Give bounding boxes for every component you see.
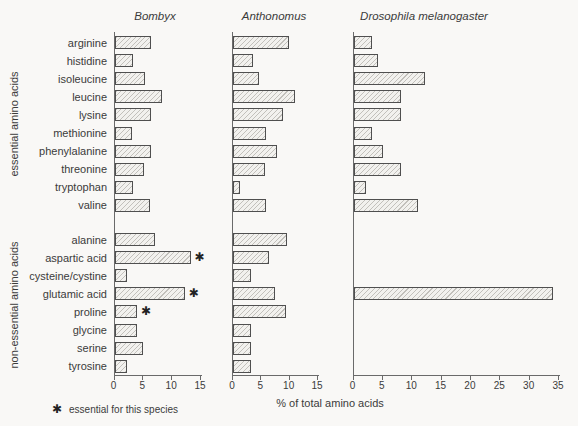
bar-anthonomus-threonine <box>233 163 265 176</box>
bar-drosophila-melanogaster-arginine <box>354 36 372 49</box>
bar-anthonomus-histidine <box>233 54 253 67</box>
x-tick-label-anthonomus-5: 5 <box>258 380 264 391</box>
x-tick-label-anthonomus-15: 15 <box>311 380 322 391</box>
bar-anthonomus-serine <box>233 342 251 355</box>
x-tick-label-drosophila-melanogaster-0: 0 <box>350 380 356 391</box>
bar-drosophila-melanogaster-methionine <box>354 127 372 140</box>
category-label-alanine: alanine <box>72 234 107 247</box>
bar-anthonomus-methionine <box>233 127 266 140</box>
x-tick-label-anthonomus-0: 0 <box>229 380 235 391</box>
bar-anthonomus-valine <box>233 199 266 212</box>
bar-bombyx-aspartic-acid <box>115 251 191 264</box>
bar-bombyx-glutamic-acid <box>115 287 185 300</box>
bar-drosophila-melanogaster-lysine <box>354 108 402 121</box>
bar-bombyx-tyrosine <box>115 360 127 373</box>
bar-anthonomus-glycine <box>233 324 251 337</box>
bar-bombyx-leucine <box>115 90 162 103</box>
bar-bombyx-proline <box>115 305 137 318</box>
bar-anthonomus-alanine <box>233 233 287 246</box>
bar-anthonomus-glutamic-acid <box>233 287 275 300</box>
bar-anthonomus-phenylalanine <box>233 145 277 158</box>
bar-drosophila-melanogaster-tryptophan <box>354 181 367 194</box>
bar-drosophila-melanogaster-threonine <box>354 163 402 176</box>
x-tick-label-drosophila-melanogaster-5: 5 <box>379 380 385 391</box>
bar-drosophila-melanogaster-isoleucine <box>354 72 426 85</box>
category-label-glycine: glycine <box>73 324 107 337</box>
bar-anthonomus-tyrosine <box>233 360 251 373</box>
x-tick-label-bombyx-15: 15 <box>194 380 205 391</box>
x-tick-label-bombyx-0: 0 <box>111 380 117 391</box>
category-label-methionine: methionine <box>53 127 107 140</box>
bar-bombyx-arginine <box>115 36 151 49</box>
category-label-threonine: threonine <box>61 163 107 176</box>
category-label-glutamic-acid: glutamic acid <box>43 288 107 301</box>
category-label-lysine: lysine <box>79 109 107 122</box>
category-label-serine: serine <box>77 342 107 355</box>
bar-bombyx-lysine <box>115 108 152 121</box>
asterisk-icon-glutamic-acid: ✱ <box>189 287 199 300</box>
bar-drosophila-melanogaster-leucine <box>354 90 402 103</box>
category-label-leucine: leucine <box>72 91 107 104</box>
bar-drosophila-melanogaster-phenylalanine <box>354 145 384 158</box>
bar-drosophila-melanogaster-glutamic-acid <box>354 287 554 300</box>
x-tick-label-drosophila-melanogaster-10: 10 <box>406 380 417 391</box>
x-tick-label-drosophila-melanogaster-25: 25 <box>494 380 505 391</box>
panel-title-drosophila-melanogaster: Drosophila melanogaster <box>360 10 488 22</box>
bar-bombyx-tryptophan <box>115 181 133 194</box>
x-tick-label-drosophila-melanogaster-20: 20 <box>464 380 475 391</box>
category-label-isoleucine: isoleucine <box>58 73 107 86</box>
category-label-arginine: arginine <box>68 37 107 50</box>
bar-anthonomus-cysteine-cystine <box>233 269 251 282</box>
bar-bombyx-alanine <box>115 233 156 246</box>
asterisk-icon: ✱ <box>52 402 62 416</box>
bar-anthonomus-leucine <box>233 90 295 103</box>
asterisk-icon-proline: ✱ <box>141 305 151 318</box>
x-tick-label-drosophila-melanogaster-35: 35 <box>552 380 563 391</box>
category-label-aspartic-acid: aspartic acid <box>45 252 107 265</box>
category-label-valine: valine <box>78 199 107 212</box>
panel-title-anthonomus: Anthonomus <box>242 10 307 22</box>
x-tick-label-bombyx-10: 10 <box>166 380 177 391</box>
group-label-non-essential-amino-acids: non-essential amino acids <box>8 241 20 368</box>
category-label-proline: proline <box>74 306 107 319</box>
asterisk-icon-aspartic-acid: ✱ <box>195 251 205 264</box>
x-axis-anthonomus <box>232 375 319 376</box>
bar-anthonomus-tryptophan <box>233 181 240 194</box>
bar-bombyx-isoleucine <box>115 72 146 85</box>
x-axis-bombyx <box>114 375 203 376</box>
bar-bombyx-histidine <box>115 54 133 67</box>
footnote-text: essential for this species <box>69 404 178 415</box>
category-label-histidine: histidine <box>67 55 107 68</box>
bar-anthonomus-proline <box>233 305 286 318</box>
bar-anthonomus-arginine <box>233 36 289 49</box>
bar-drosophila-melanogaster-valine <box>354 199 419 212</box>
bar-anthonomus-lysine <box>233 108 283 121</box>
bar-bombyx-valine <box>115 199 150 212</box>
bar-bombyx-serine <box>115 342 144 355</box>
category-label-tyrosine: tyrosine <box>68 360 107 373</box>
panel-title-bombyx: Bombyx <box>134 10 176 22</box>
bar-anthonomus-isoleucine <box>233 72 259 85</box>
bar-bombyx-methionine <box>115 127 133 140</box>
bar-anthonomus-aspartic-acid <box>233 251 269 264</box>
group-label-essential-amino-acids: essential amino acids <box>8 71 20 176</box>
x-tick-label-bombyx-5: 5 <box>140 380 146 391</box>
category-label-cysteine-cystine: cysteine/cystine <box>29 270 107 283</box>
x-tick-label-drosophila-melanogaster-15: 15 <box>435 380 446 391</box>
category-label-tryptophan: tryptophan <box>55 181 107 194</box>
x-axis-label: % of total amino acids <box>276 397 384 409</box>
bar-bombyx-phenylalanine <box>115 145 152 158</box>
bar-bombyx-glycine <box>115 324 137 337</box>
figure-footnote: ✱ essential for this species <box>52 402 178 416</box>
bar-bombyx-threonine <box>115 163 145 176</box>
x-tick-label-anthonomus-10: 10 <box>283 380 294 391</box>
bar-bombyx-cysteine-cystine <box>115 269 127 282</box>
bar-drosophila-melanogaster-histidine <box>354 54 379 67</box>
x-tick-label-drosophila-melanogaster-30: 30 <box>523 380 534 391</box>
category-label-phenylalanine: phenylalanine <box>39 145 107 158</box>
amino-acid-bar-chart-figure: essential amino acids non-essential amin… <box>0 0 578 426</box>
